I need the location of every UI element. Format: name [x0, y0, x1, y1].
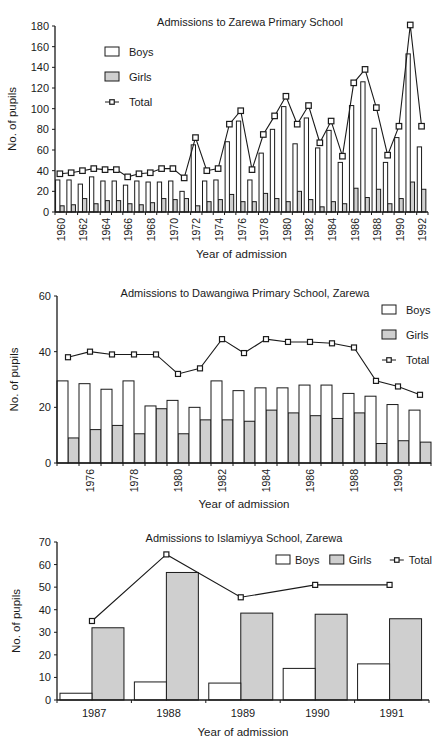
legend-swatch-boys	[276, 555, 290, 564]
y-tick-label: 20	[39, 649, 51, 661]
total-marker	[385, 152, 391, 158]
total-marker	[57, 171, 63, 177]
y-tick-label: 60	[37, 144, 49, 156]
bar-girls	[286, 202, 290, 212]
total-marker	[91, 166, 97, 172]
bar-boys	[134, 682, 166, 700]
y-tick-label: 60	[39, 290, 51, 302]
total-marker	[242, 351, 247, 356]
bar-boys	[191, 145, 195, 212]
bar-boys	[169, 181, 173, 212]
bar-girls	[128, 204, 132, 212]
legend-label-total: Total	[129, 96, 152, 108]
total-marker	[181, 175, 187, 181]
total-marker	[313, 582, 318, 587]
bar-girls	[332, 418, 343, 463]
bar-girls	[92, 628, 124, 700]
bar-girls	[162, 199, 166, 212]
x-tick-label: 1989	[231, 707, 255, 719]
y-tick-label: 140	[31, 61, 49, 73]
total-marker	[215, 166, 221, 172]
bar-boys	[123, 381, 134, 463]
total-marker	[283, 94, 289, 100]
total-marker	[352, 345, 357, 350]
bar-boys	[101, 181, 105, 212]
bar-boys	[417, 147, 421, 212]
total-marker	[330, 341, 335, 346]
total-marker	[374, 105, 380, 111]
x-tick-label: 1962	[77, 218, 89, 242]
total-marker	[286, 339, 291, 344]
x-tick-label: 1964	[100, 218, 112, 242]
y-tick-label: 0	[45, 694, 51, 706]
x-tick-label: 1988	[371, 218, 383, 242]
total-marker	[114, 167, 120, 173]
x-tick-label: 1990	[305, 707, 329, 719]
total-marker	[89, 619, 94, 624]
x-tick-label: 1976	[236, 218, 248, 242]
bar-girls	[398, 441, 409, 463]
legend: BoysGirlsTotal	[105, 46, 154, 108]
bar-girls	[244, 421, 255, 463]
bar-boys	[259, 153, 263, 212]
x-tick-label: 1976	[84, 469, 96, 493]
y-tick-label: 80	[37, 123, 49, 135]
legend: BoysGirlsTotal	[382, 304, 431, 366]
bar-girls	[71, 205, 75, 212]
bar-girls	[315, 614, 347, 700]
x-tick-label: 1984	[326, 218, 338, 242]
bar-girls	[310, 416, 321, 463]
total-line	[68, 339, 420, 395]
x-tick-label: 1984	[260, 469, 272, 493]
x-tick-label: 1966	[122, 218, 134, 242]
legend-label-boys: Boys	[129, 46, 154, 58]
bar-boys	[343, 393, 354, 463]
bar-boys	[56, 180, 60, 212]
bar-girls	[275, 199, 279, 212]
bar-boys	[383, 162, 387, 212]
x-axis-label: Year of admission	[198, 726, 289, 738]
legend-swatch-boys	[105, 47, 119, 56]
total-marker	[154, 352, 159, 357]
bar-girls	[166, 572, 198, 700]
bar-boys	[78, 184, 82, 212]
bar-boys	[358, 664, 390, 700]
legend-label-girls: Girls	[349, 554, 372, 566]
total-marker	[395, 558, 400, 563]
legend-swatch-girls	[105, 72, 119, 81]
bar-boys	[248, 180, 252, 212]
chart-dawangiwa-primary: Admissions to Dawangiwa Primary School, …	[8, 287, 431, 510]
bar-boys	[211, 381, 222, 463]
bar-girls	[331, 202, 335, 212]
y-tick-label: 40	[39, 346, 51, 358]
x-tick-label: 1960	[55, 218, 67, 242]
total-marker	[198, 366, 203, 371]
bar-girls	[388, 204, 392, 212]
x-tick-label: 1982	[303, 218, 315, 242]
y-tick-label: 160	[31, 41, 49, 53]
total-marker	[272, 113, 278, 119]
bar-girls	[94, 204, 98, 212]
x-tick-label: 1991	[380, 707, 404, 719]
bar-girls	[297, 191, 301, 212]
chart-title: Admissions to Zarewa Primary School	[157, 16, 343, 28]
x-axis-label: Year of admission	[199, 498, 290, 510]
x-tick-label: 1986	[304, 469, 316, 493]
bar-girls	[229, 194, 233, 212]
y-tick-label: 60	[39, 559, 51, 571]
total-marker	[148, 170, 154, 176]
y-tick-label: 180	[31, 20, 49, 32]
total-marker	[136, 171, 142, 177]
y-tick-label: 40	[37, 165, 49, 177]
bar-boys	[101, 389, 112, 463]
bar-girls	[342, 204, 346, 212]
bar-boys	[146, 182, 150, 212]
x-tick-label: 1978	[128, 469, 140, 493]
total-marker	[408, 22, 414, 28]
total-marker	[227, 121, 233, 127]
bar-boys	[316, 148, 320, 212]
x-tick-label: 1987	[82, 707, 106, 719]
bar-boys	[395, 138, 399, 212]
bar-girls	[90, 430, 101, 463]
bar-boys	[349, 106, 353, 212]
